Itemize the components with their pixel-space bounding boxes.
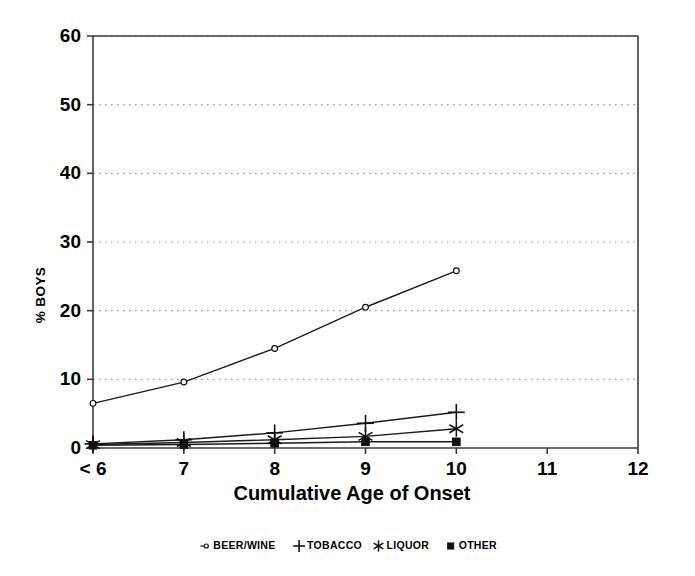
legend-label: BEER/WINE bbox=[213, 539, 275, 551]
chart-figure: 0102030405060 < 6789101112 % BOYS Cumula… bbox=[0, 0, 695, 576]
x-tick-label-1: 7 bbox=[179, 458, 190, 479]
x-tick-label-6: 12 bbox=[627, 458, 648, 479]
marker-filled-square bbox=[448, 543, 454, 549]
legend-label: LIQUOR bbox=[387, 539, 430, 551]
x-tick-label-5: 11 bbox=[537, 458, 558, 479]
y-tick-label-40: 40 bbox=[60, 162, 81, 183]
legend-label: OTHER bbox=[459, 539, 497, 551]
marker-filled-square bbox=[453, 438, 461, 446]
x-tick-label-0: < 6 bbox=[80, 458, 107, 479]
y-axis-title: % BOYS bbox=[33, 267, 48, 323]
x-tick-label-2: 8 bbox=[269, 458, 280, 479]
marker-filled-square bbox=[89, 441, 97, 449]
marker-open-circle bbox=[90, 400, 96, 406]
x-tick-label-4: 10 bbox=[446, 458, 467, 479]
y-tick-label-20: 20 bbox=[60, 300, 81, 321]
marker-filled-square bbox=[362, 438, 370, 446]
y-tick-label-50: 50 bbox=[60, 94, 81, 115]
marker-open-circle bbox=[272, 346, 278, 352]
y-tick-label-10: 10 bbox=[60, 368, 81, 389]
chart-svg: 0102030405060 < 6789101112 % BOYS Cumula… bbox=[0, 0, 695, 576]
x-axis-title: Cumulative Age of Onset bbox=[233, 482, 470, 504]
marker-open-circle bbox=[363, 304, 369, 310]
marker-filled-square bbox=[271, 439, 279, 447]
y-tick-label-0: 0 bbox=[70, 437, 81, 458]
marker-filled-square bbox=[180, 441, 188, 449]
legend-label: TOBACCO bbox=[307, 539, 362, 551]
x-tick-label-3: 9 bbox=[360, 458, 371, 479]
marker-open-circle bbox=[453, 268, 459, 274]
marker-open-circle bbox=[181, 379, 187, 385]
marker-open-circle bbox=[204, 544, 208, 548]
y-tick-label-60: 60 bbox=[60, 25, 81, 46]
y-tick-label-30: 30 bbox=[60, 231, 81, 252]
